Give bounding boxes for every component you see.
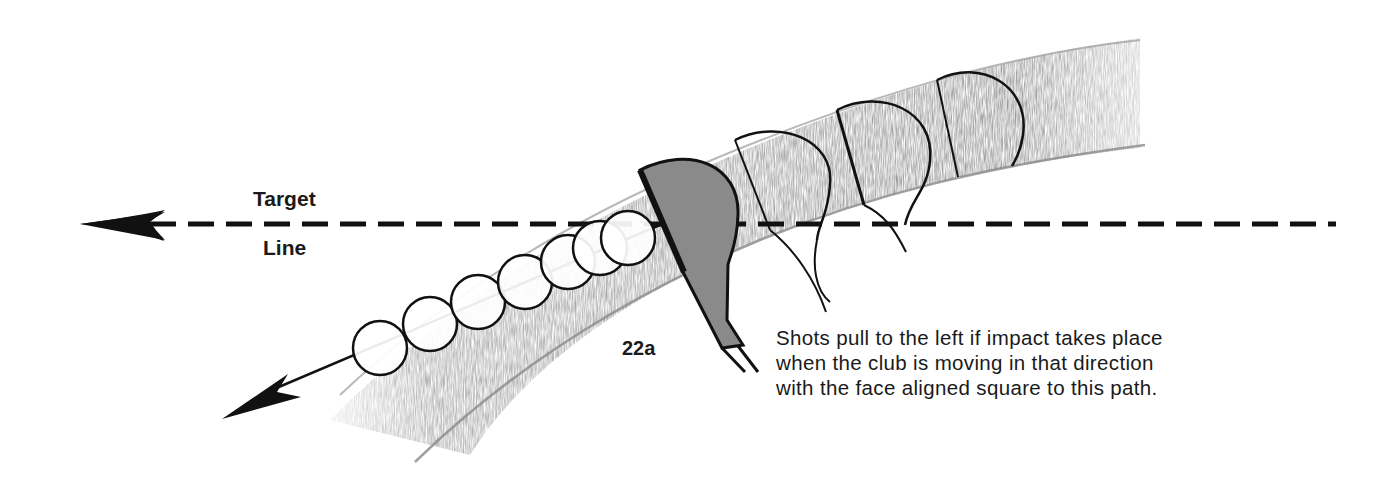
caption-line: when the club is moving in that directio… bbox=[776, 350, 1163, 375]
figure-number: 22a bbox=[622, 338, 655, 358]
line-label: Line bbox=[263, 237, 306, 258]
target-label: Target bbox=[253, 188, 316, 209]
caption-line: with the face aligned square to this pat… bbox=[776, 375, 1163, 400]
golf-swing-path-figure: Target Line 22a Shots pull to the left i… bbox=[0, 0, 1396, 481]
ball bbox=[403, 297, 457, 351]
ball-path-arrow-icon bbox=[222, 374, 301, 419]
ball bbox=[601, 211, 655, 265]
ball bbox=[353, 321, 407, 375]
swing-illustration bbox=[0, 0, 1396, 481]
caption-line: Shots pull to the left if impact takes p… bbox=[776, 325, 1163, 350]
figure-caption: Shots pull to the left if impact takes p… bbox=[776, 325, 1163, 400]
